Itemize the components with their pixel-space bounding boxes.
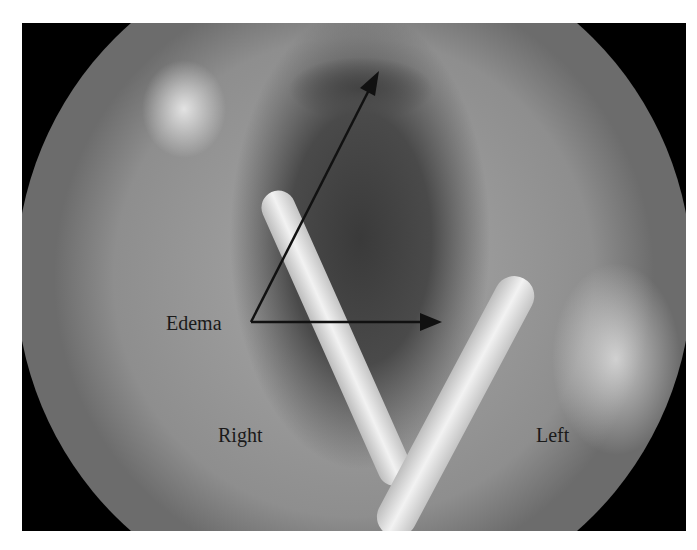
annotation-arrows [0, 0, 697, 550]
arrow-to-upper-edema [251, 71, 379, 322]
left-side-label: Left [536, 425, 569, 445]
right-side-label: Right [218, 425, 262, 445]
edema-label: Edema [166, 313, 222, 333]
arrow-to-left-fold-edema [251, 313, 442, 331]
